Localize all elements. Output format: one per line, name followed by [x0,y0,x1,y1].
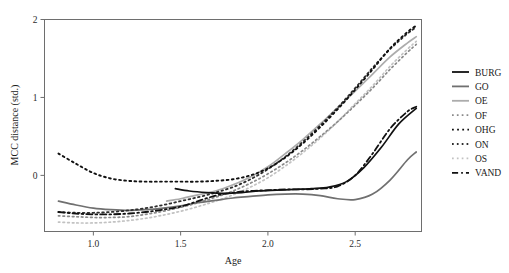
legend-label: GO [475,82,489,92]
chart-background [0,0,509,273]
y-tick-label: 1 [33,93,38,103]
x-tick-label: 2.5 [349,239,361,249]
legend-label: OE [475,96,488,106]
y-axis-label: MCC distance (std.) [9,85,21,166]
legend-label: OHG [475,125,496,135]
y-tick-label: 2 [33,15,38,25]
legend-label: OS [475,154,487,164]
legend-label: BURG [475,68,502,78]
x-tick-label: 1.0 [87,239,99,249]
x-tick-label: 2.0 [262,239,274,249]
y-tick-label: 0 [33,171,38,181]
x-tick-label: 1.5 [175,239,187,249]
legend-label: OF [475,111,487,121]
mcc-distance-line-chart: 012 1.01.52.02.5 MCC distance (std.) Age… [0,0,509,273]
x-axis-label: Age [225,255,242,266]
legend-label: ON [475,140,489,150]
legend-label: VAND [475,168,501,178]
